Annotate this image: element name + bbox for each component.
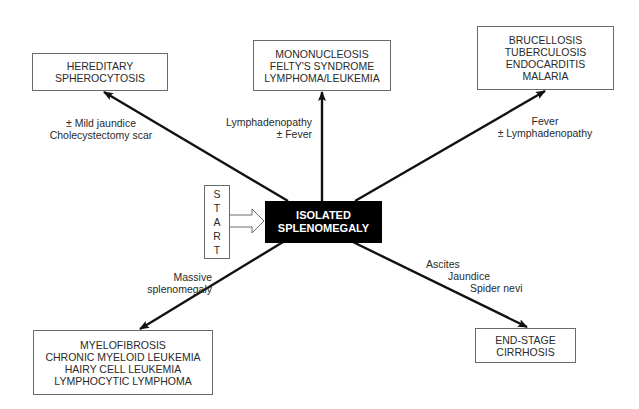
outcome-line: LYMPHOCYTIC LYMPHOMA xyxy=(54,375,191,387)
outcome-line: ENDOCARDITIS xyxy=(506,58,585,70)
isolated-splenomegaly-box: ISOLATED SPLENOMEGALY xyxy=(265,201,382,243)
condition-line: Jaundice xyxy=(448,270,490,282)
outcome-line: HAIRY CELL LEUKEMIA xyxy=(65,363,182,375)
condition-label-cirrhosis-3: Spider nevi xyxy=(470,282,523,294)
condition-label-cirrhosis-2: Jaundice xyxy=(448,270,490,282)
condition-line: Lymphadenopathy xyxy=(212,116,312,128)
outcome-line: BRUCELLOSIS xyxy=(509,34,583,46)
outcome-line: MONONUCLEOSIS xyxy=(275,48,368,60)
condition-line: ± Mild jaundice xyxy=(36,117,166,129)
outcome-line: FELTY'S SYNDROME xyxy=(270,60,375,72)
condition-line: ± Fever xyxy=(212,128,312,140)
outcome-line: CIRRHOSIS xyxy=(496,346,554,358)
condition-line: splenomegaly xyxy=(110,283,212,295)
condition-line: Ascites xyxy=(426,258,460,270)
outcome-box-cirrhosis: END-STAGE CIRRHOSIS xyxy=(475,328,576,363)
start-arrow xyxy=(229,209,264,233)
start-box: S T A R T xyxy=(204,185,230,259)
center-line: SPLENOMEGALY xyxy=(278,222,369,235)
outcome-line: LYMPHOMA/LEUKEMIA xyxy=(264,72,379,84)
outcome-box-hereditary: HEREDITARY SPHEROCYTOSIS xyxy=(32,53,168,91)
start-letter: T xyxy=(214,201,220,215)
condition-line: ± Lymphadenopathy xyxy=(490,127,600,139)
start-letter: T xyxy=(214,243,220,257)
outcome-line: TUBERCULOSIS xyxy=(505,46,587,58)
condition-label-massive: Massive splenomegaly xyxy=(110,271,212,295)
outcome-line: SPHEROCYTOSIS xyxy=(55,72,145,84)
start-letter: R xyxy=(213,229,221,243)
condition-line: Massive xyxy=(110,271,212,283)
outcome-line: HEREDITARY xyxy=(67,60,134,72)
condition-label-hereditary: ± Mild jaundice Cholecystectomy scar xyxy=(36,117,166,141)
outcome-box-massive: MYELOFIBROSIS CHRONIC MYELOID LEUKEMIA H… xyxy=(33,330,213,395)
condition-line: Spider nevi xyxy=(470,282,523,294)
outcome-line: MALARIA xyxy=(522,70,568,82)
condition-label-infection: Fever ± Lymphadenopathy xyxy=(490,115,600,139)
outcome-line: END-STAGE xyxy=(495,334,555,346)
condition-label-mono: Lymphadenopathy ± Fever xyxy=(212,116,312,140)
outcome-box-infection: BRUCELLOSIS TUBERCULOSIS ENDOCARDITIS MA… xyxy=(477,26,614,90)
start-letter: S xyxy=(213,187,220,201)
condition-line: Fever xyxy=(490,115,600,127)
center-line: ISOLATED xyxy=(296,209,351,222)
condition-label-cirrhosis-1: Ascites xyxy=(426,258,460,270)
condition-line: Cholecystectomy scar xyxy=(36,129,166,141)
arrow-to-hereditary xyxy=(104,92,288,201)
outcome-box-mono: MONONUCLEOSIS FELTY'S SYNDROME LYMPHOMA/… xyxy=(253,40,391,91)
outcome-line: MYELOFIBROSIS xyxy=(80,339,166,351)
arrow-to-infection xyxy=(355,91,545,201)
outcome-line: CHRONIC MYELOID LEUKEMIA xyxy=(45,351,200,363)
start-letter: A xyxy=(213,215,220,229)
